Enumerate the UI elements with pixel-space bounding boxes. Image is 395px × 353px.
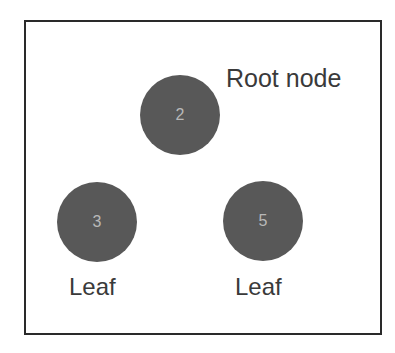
leaf-node-right-label: Leaf: [235, 275, 282, 299]
root-node-value: 2: [176, 106, 185, 124]
leaf-node-left-label: Leaf: [69, 275, 116, 299]
leaf-node-left-value: 3: [93, 213, 102, 231]
root-node: 2: [140, 75, 220, 155]
root-node-label: Root node: [226, 66, 341, 91]
leaf-node-right-value: 5: [259, 212, 268, 230]
leaf-node-left: 3: [57, 182, 137, 262]
leaf-node-right: 5: [223, 181, 303, 261]
